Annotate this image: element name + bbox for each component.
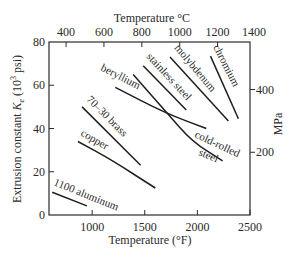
top-axis: 400600800100012001400: [57, 25, 266, 47]
right-axis-title: MPa: [271, 112, 285, 135]
extrusion-constant-chart: Temperature °C 400600800100012001400 100…: [0, 0, 301, 258]
y-tick-label: 60: [33, 78, 45, 92]
x-tick-label: 1500: [133, 220, 157, 234]
label-1100-aluminum: 1100 aluminum: [52, 176, 121, 213]
series-copper: [78, 142, 155, 189]
x-tick-label: 2500: [238, 220, 262, 234]
top-tick-label: 1000: [168, 25, 192, 39]
left-axis: 020406080: [33, 35, 54, 222]
x-tick-label: 1000: [80, 220, 104, 234]
top-tick-label: 800: [133, 25, 151, 39]
y-tick-label: 40: [33, 122, 45, 136]
y-tick-label: 80: [33, 35, 45, 49]
top-tick-label: 400: [57, 25, 75, 39]
label-beryllium: beryllium: [99, 61, 143, 91]
right-tick-label: 400: [256, 83, 274, 97]
y-tick-label: 20: [33, 165, 45, 179]
top-tick-label: 600: [95, 25, 113, 39]
right-tick-label: 200: [256, 145, 274, 159]
x-tick-label: 2000: [185, 220, 209, 234]
top-tick-label: 1400: [242, 25, 266, 39]
top-axis-title: Temperature °C: [114, 11, 190, 25]
top-tick-label: 1200: [206, 25, 230, 39]
bottom-axis: 1000150020002500: [80, 210, 262, 234]
y-axis-title: Extrusion constant Ke (103 psi): [9, 55, 26, 203]
x-axis-title: Temperature (°F): [109, 233, 192, 247]
series-labels: 1100 aluminum copper 70–30 brass berylli…: [52, 42, 242, 213]
y-tick-label: 0: [39, 208, 45, 222]
